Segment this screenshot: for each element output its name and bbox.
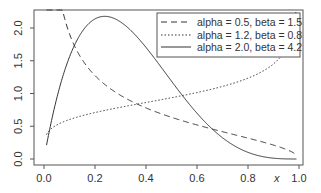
x-tick-label: 1.0	[291, 172, 306, 184]
y-tick-label: 2.0	[12, 20, 24, 35]
y-tick-label: 0.0	[12, 151, 24, 166]
x-axis-label: x	[273, 172, 280, 184]
x-tick-label: 0.0	[36, 172, 51, 184]
legend: alpha = 0.5, beta = 1.5 alpha = 1.2, bet…	[157, 13, 302, 57]
legend-entry-1: alpha = 0.5, beta = 1.5	[197, 16, 302, 28]
legend-entry-2: alpha = 1.2, beta = 0.8	[197, 29, 302, 41]
y-tick-label: 1.0	[12, 86, 24, 101]
x-axis: 0.00.20.40.60.81.0	[36, 165, 306, 184]
y-tick-label: 1.5	[12, 53, 24, 68]
x-tick-label: 0.6	[189, 172, 204, 184]
y-axis: 0.00.51.01.52.0	[12, 20, 34, 166]
y-tick-label: 0.5	[12, 119, 24, 134]
x-tick-label: 0.8	[240, 172, 255, 184]
legend-entry-3: alpha = 2.0, beta = 4.2	[197, 41, 302, 53]
x-tick-label: 0.4	[138, 172, 153, 184]
beta-density-chart: 0.00.51.01.52.0 0.00.20.40.60.81.0 x alp…	[0, 0, 321, 193]
x-tick-label: 0.2	[87, 172, 102, 184]
